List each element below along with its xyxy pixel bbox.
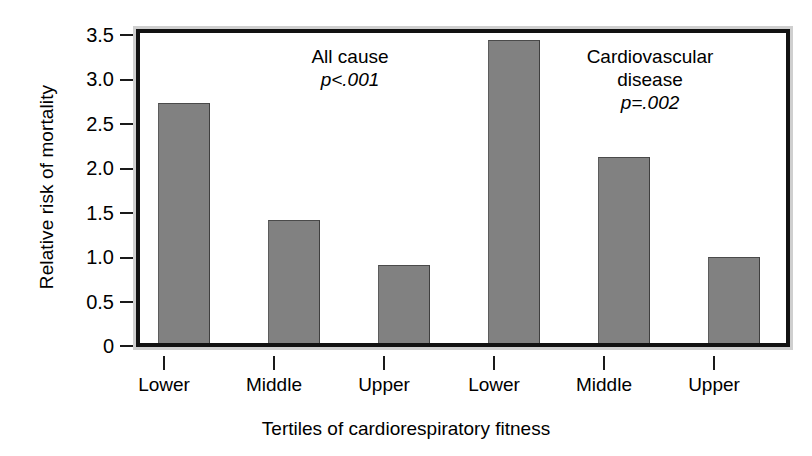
y-tick-label-0: 0 — [50, 336, 114, 356]
x-tick-mark-1 — [163, 356, 165, 370]
annotation-all-cause-title: All cause — [240, 45, 460, 68]
x-tick-label-2: Middle — [214, 374, 334, 396]
plot-frame-inner-border: All cause p<.001 Cardiovascular disease … — [136, 29, 790, 347]
x-tick-label-6: Upper — [654, 374, 774, 396]
plot-frame: All cause p<.001 Cardiovascular disease … — [133, 26, 793, 350]
plot-area: All cause p<.001 Cardiovascular disease … — [140, 33, 786, 343]
x-tick-label-3: Upper — [324, 374, 444, 396]
annotation-cvd-title-line1: Cardiovascular — [525, 45, 775, 68]
bar-cvd-upper — [708, 257, 760, 343]
bar-all-cause-upper — [378, 265, 430, 343]
y-tick-label-3.0: 3.0 — [50, 69, 114, 89]
x-tick-label-5: Middle — [544, 374, 664, 396]
bar-chart-figure: Relative risk of mortality 3.5 3.0 2.5 2… — [0, 0, 812, 456]
x-tick-mark-5 — [603, 356, 605, 370]
x-tick-mark-4 — [493, 356, 495, 370]
y-tick-label-0.5: 0.5 — [50, 292, 114, 312]
x-tick-mark-2 — [273, 356, 275, 370]
y-tick-label-3.5: 3.5 — [50, 25, 114, 45]
bar-all-cause-middle — [268, 220, 320, 344]
annotation-cvd-pvalue: p=.002 — [525, 91, 775, 114]
y-tick-label-2.0: 2.0 — [50, 158, 114, 178]
x-tick-label-1: Lower — [104, 374, 224, 396]
y-tick-label-1.5: 1.5 — [50, 203, 114, 223]
annotation-cvd-title-line2: disease — [525, 68, 775, 91]
x-tick-label-4: Lower — [434, 374, 554, 396]
bar-cvd-middle — [598, 157, 650, 343]
annotation-all-cause: All cause p<.001 — [240, 45, 460, 91]
x-axis-title: Tertiles of cardiorespiratory fitness — [0, 418, 812, 440]
x-tick-mark-3 — [383, 356, 385, 370]
x-tick-mark-6 — [713, 356, 715, 370]
annotation-all-cause-pvalue: p<.001 — [240, 68, 460, 91]
y-tick-label-1.0: 1.0 — [50, 247, 114, 267]
y-tick-label-2.5: 2.5 — [50, 114, 114, 134]
bar-all-cause-lower — [158, 103, 210, 343]
annotation-cardiovascular-disease: Cardiovascular disease p=.002 — [525, 45, 775, 114]
